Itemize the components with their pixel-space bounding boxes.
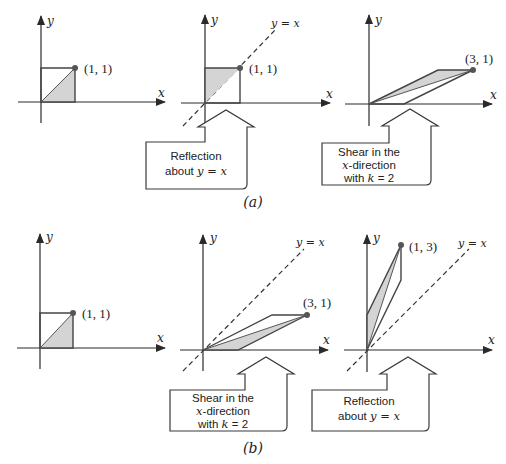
- callout-line1: Shear in the: [338, 146, 400, 158]
- diagonal-label: y = x: [295, 236, 325, 249]
- y-axis-label: y: [372, 231, 380, 245]
- point-label: (3, 1): [465, 51, 493, 66]
- y-axis-label: y: [45, 230, 53, 244]
- transformations-figure: y x (1, 1) y x y = x (1, 1) y x (3, 1) R…: [0, 0, 506, 464]
- y-axis-label: y: [209, 231, 217, 245]
- panel-b2: y x y = x (3, 1): [180, 231, 331, 371]
- y-axis-label: y: [46, 14, 54, 28]
- diagonal: [369, 70, 473, 104]
- corner-point: [72, 65, 78, 71]
- callout-line3: with k = 2: [197, 417, 248, 431]
- corner-point: [70, 310, 76, 316]
- corner-point: [470, 67, 476, 73]
- callout-line1: Reflection: [170, 150, 221, 162]
- callout-reflection-a: Reflection about y = x: [146, 110, 254, 189]
- diagonal-label: y = x: [270, 17, 300, 30]
- diagonal: [203, 315, 307, 350]
- x-axis-label: x: [488, 333, 495, 347]
- panel-a2: y x y = x (1, 1): [181, 13, 333, 126]
- callout-line2: about y = x: [165, 164, 227, 178]
- panel-a1: y x (1, 1): [18, 14, 165, 123]
- point-label: (1, 1): [82, 306, 110, 321]
- callout-reflection-b: Reflection about y = x: [312, 357, 436, 431]
- y-axis-label: y: [374, 13, 382, 27]
- callout-line2: about y = x: [338, 409, 400, 423]
- corner-point: [398, 242, 404, 248]
- panel-b3: y x y = x (1, 3): [344, 231, 495, 372]
- callout-line2: x-direction: [342, 158, 396, 172]
- callout-shear-a: Shear in the x-direction with k = 2: [322, 109, 438, 185]
- callout-line3: with k = 2: [343, 171, 394, 185]
- callout-line1: Reflection: [343, 395, 394, 407]
- callout-shear-b: Shear in the x-direction with k = 2: [170, 357, 294, 431]
- x-axis-label: x: [157, 331, 164, 345]
- point-label: (1, 1): [249, 61, 277, 76]
- corner-point: [304, 312, 310, 318]
- point-label: (3, 1): [303, 295, 331, 310]
- point-label: (1, 3): [409, 239, 437, 254]
- panel-b1: y x (1, 1): [17, 230, 165, 369]
- callout-line2: x-direction: [196, 404, 250, 418]
- caption-a: (a): [243, 194, 262, 210]
- x-axis-label: x: [158, 86, 165, 100]
- caption-b: (b): [243, 440, 263, 456]
- x-axis-label: x: [490, 88, 497, 102]
- line-y-equals-x: [347, 249, 469, 371]
- line-y-equals-x: [183, 249, 304, 371]
- shaded-triangle: [205, 68, 240, 103]
- panel-a3: y x (3, 1): [345, 13, 497, 126]
- x-axis-label: x: [326, 87, 333, 101]
- point-label: (1, 1): [84, 61, 112, 76]
- y-axis-label: y: [210, 13, 218, 27]
- callout-line1: Shear in the: [192, 392, 254, 404]
- corner-point: [237, 65, 243, 71]
- x-axis-label: x: [323, 333, 330, 347]
- diagonal-label: y = x: [457, 237, 487, 250]
